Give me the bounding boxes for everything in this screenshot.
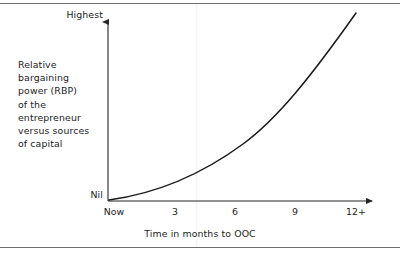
y-axis-description: Relative bargaining power (RBP) of the e… — [18, 58, 104, 150]
figure-container: Relative bargaining power (RBP) of the e… — [0, 0, 400, 256]
x-tick-label-12plus: 12+ — [346, 206, 366, 217]
description-line: entrepreneur — [18, 111, 104, 124]
y-axis-top-label: Highest — [46, 9, 103, 20]
description-line: bargaining — [18, 71, 104, 84]
x-axis-title: Time in months to OOC — [0, 228, 400, 239]
x-tick-label-9: 9 — [292, 206, 298, 217]
description-line: power (RBP) — [18, 84, 104, 97]
rbp-curve — [109, 13, 356, 200]
x-tick-label-3: 3 — [172, 206, 178, 217]
description-line: versus sources — [18, 124, 104, 137]
description-line: Relative — [18, 58, 104, 71]
x-tick-label-now: Now — [104, 206, 125, 217]
description-line: of the — [18, 98, 104, 111]
description-line: of capital — [18, 137, 104, 150]
x-tick-label-6: 6 — [232, 206, 238, 217]
y-axis-bottom-label: Nil — [66, 189, 103, 200]
